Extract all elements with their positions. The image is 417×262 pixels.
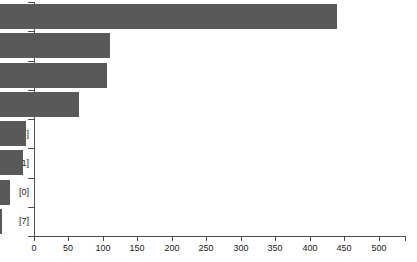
y-tick-mark [28, 207, 34, 208]
bar-fill [0, 4, 337, 29]
bar-fill [0, 92, 79, 117]
x-tick-mark [241, 236, 242, 241]
x-tick-mark [344, 236, 345, 241]
bar-7 [0, 209, 2, 234]
x-axis-line [34, 236, 405, 237]
bar-2 [0, 92, 79, 117]
bar-fill [0, 33, 110, 58]
x-tick-label: 500 [359, 243, 399, 254]
bar-3 [0, 4, 337, 29]
y-tick-label: [7] [0, 216, 29, 226]
x-tick-mark [137, 236, 138, 241]
bar-fill [0, 150, 23, 175]
y-tick-mark [28, 31, 34, 32]
y-tick-mark [28, 148, 34, 149]
bar-fill [0, 63, 107, 88]
bar-fill [0, 180, 10, 205]
x-tick-mark [405, 236, 406, 241]
bar-chart: [3][4][6][2][5][1][0][7] 050100150200250… [0, 0, 417, 262]
x-tick-mark [310, 236, 311, 241]
bar-fill [0, 121, 26, 146]
x-tick-mark [379, 236, 380, 241]
x-tick-mark [172, 236, 173, 241]
bar-fill [0, 209, 2, 234]
y-tick-mark [28, 178, 34, 179]
x-tick-mark [34, 236, 35, 241]
x-tick-label: 450 [324, 243, 364, 254]
y-tick-mark [28, 90, 34, 91]
bar-5 [0, 121, 26, 146]
x-tick-mark [68, 236, 69, 241]
x-tick-label: 350 [255, 243, 295, 254]
x-tick-label: 50 [48, 243, 88, 254]
bar-1 [0, 150, 23, 175]
bar-6 [0, 63, 107, 88]
x-tick-mark [275, 236, 276, 241]
x-tick-mark [206, 236, 207, 241]
y-tick-mark [28, 2, 34, 3]
x-tick-label: 150 [117, 243, 157, 254]
bar-0 [0, 180, 10, 205]
y-tick-mark [28, 119, 34, 120]
bar-4 [0, 33, 110, 58]
x-tick-mark [103, 236, 104, 241]
x-tick-label: 250 [186, 243, 226, 254]
